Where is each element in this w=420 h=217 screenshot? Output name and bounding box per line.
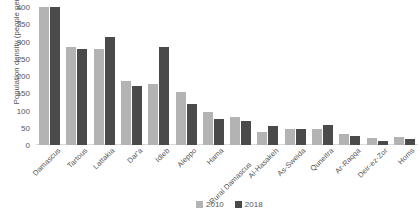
x-axis-tick-label: Dar'a [125, 146, 144, 165]
bar-chart: Population density (people per km²) 0501… [0, 0, 420, 217]
y-axis-ticks: 050100150200250300350400 [0, 7, 34, 145]
x-axis-labels: DamascusTartousLattakiaDar'aIdlebAleppoH… [36, 146, 418, 191]
bar-2018 [350, 136, 360, 145]
bar-group [391, 7, 418, 145]
plot-area [36, 7, 418, 145]
bar-group [363, 7, 390, 145]
bar-groups [36, 7, 418, 145]
bar-2010 [39, 7, 49, 145]
bar-2010 [312, 129, 322, 145]
bar-group [118, 7, 145, 145]
legend-label: 2018 [245, 200, 263, 209]
bar-group [172, 7, 199, 145]
y-axis-tick-label: 250 [17, 54, 30, 63]
bar-group [254, 7, 281, 145]
bar-2010 [339, 134, 349, 145]
y-axis-tick-label: 200 [17, 72, 30, 81]
x-axis-tick-label: Quneitra [308, 146, 335, 173]
x-axis-tick-label: As-Sweida [276, 146, 308, 178]
x-axis-tick-label: Idleb [153, 146, 171, 164]
legend-item: 2010 [196, 200, 224, 209]
bar-group [309, 7, 336, 145]
bar-2010 [176, 92, 186, 145]
bar-group [63, 7, 90, 145]
bar-2018 [241, 121, 251, 145]
y-axis-tick-label: 300 [17, 37, 30, 46]
bar-2018 [77, 49, 87, 145]
x-axis-tick-label: Hama [205, 146, 226, 167]
bar-2018 [187, 104, 197, 145]
x-axis-tick-label: Homs [396, 146, 416, 166]
bar-2010 [257, 132, 267, 145]
legend: 20102018 [196, 200, 270, 209]
y-axis-tick-label: 350 [17, 20, 30, 29]
bar-2018 [214, 119, 224, 145]
bar-2010 [230, 117, 240, 145]
bar-group [36, 7, 63, 145]
bar-2010 [148, 84, 158, 145]
bar-2018 [159, 47, 169, 145]
y-axis-tick-label: 50 [21, 123, 30, 132]
y-axis-tick-label: 400 [17, 3, 30, 12]
bar-2010 [367, 138, 377, 145]
bar-group [91, 7, 118, 145]
bar-group [200, 7, 227, 145]
y-axis-tick-label: 100 [17, 106, 30, 115]
x-axis-tick-label: Lattakia [91, 146, 116, 171]
bar-group [282, 7, 309, 145]
bar-group [145, 7, 172, 145]
bar-2010 [66, 47, 76, 145]
bar-group [336, 7, 363, 145]
bar-2018 [323, 125, 333, 145]
bar-2018 [132, 86, 142, 145]
x-axis-tick-label: Damascus [30, 146, 62, 178]
legend-swatch-icon [235, 201, 242, 208]
x-axis-tick-label: Aleppo [175, 146, 198, 169]
x-axis-tick-label: Al-Hasakeh [246, 146, 280, 180]
legend-label: 2010 [206, 200, 224, 209]
bar-2010 [121, 81, 131, 145]
bar-2018 [405, 139, 415, 145]
bar-2018 [105, 37, 115, 145]
bar-2018 [268, 126, 278, 145]
y-axis-tick-label: 150 [17, 89, 30, 98]
y-axis-tick-label: 0 [26, 141, 30, 150]
bar-2010 [285, 129, 295, 145]
bar-group [227, 7, 254, 145]
bar-2018 [378, 141, 388, 145]
bar-2010 [94, 49, 104, 145]
legend-swatch-icon [196, 201, 203, 208]
x-axis-tick-label: Tartous [65, 146, 89, 170]
legend-item: 2018 [235, 200, 263, 209]
bar-2018 [50, 7, 60, 145]
bar-2018 [296, 129, 306, 145]
bar-2010 [203, 112, 213, 145]
bar-2010 [394, 137, 404, 145]
